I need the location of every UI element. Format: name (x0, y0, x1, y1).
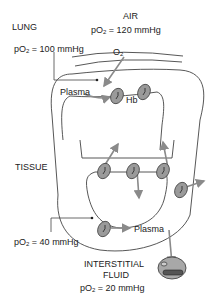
tissue-label: TISSUE (15, 162, 48, 172)
interstitial-fluid-label-line2: FLUID (103, 270, 129, 280)
air-label: AIR (123, 11, 138, 21)
rbc-arrow-right (186, 181, 204, 187)
o2-label: O2 (113, 47, 123, 59)
plasma-bottom-label: Plasma (134, 224, 164, 234)
red-blood-cell (154, 161, 172, 181)
tissue-cell (158, 257, 186, 279)
red-blood-cell (172, 180, 190, 200)
interstitial-po2-label: pO2 = 20 mmHg (80, 283, 145, 295)
red-blood-cell (108, 86, 126, 106)
interstitial-fluid-label-line1: INTERSTITIAL (84, 259, 144, 269)
hb-label: Hb (126, 95, 138, 105)
alveolar-membrane-line (72, 52, 183, 57)
alveolar-membrane-line (75, 60, 182, 66)
lung-po2-label: pO2 = 100 mmHg (14, 44, 84, 56)
tissue-po2-label: pO2 = 40 mmHg (14, 237, 79, 249)
lung-label: LUNG (12, 22, 37, 32)
capillary-inner-lower-wall (86, 172, 167, 228)
red-blood-cell (95, 161, 113, 181)
plasma-top-label: Plasma (60, 87, 90, 97)
air-po2-label: pO2 = 120 mmHg (91, 25, 161, 37)
red-blood-cell (124, 161, 142, 181)
red-blood-cell (135, 82, 153, 102)
red-blood-cell (95, 219, 113, 239)
tissue-po2-leader (51, 218, 91, 232)
